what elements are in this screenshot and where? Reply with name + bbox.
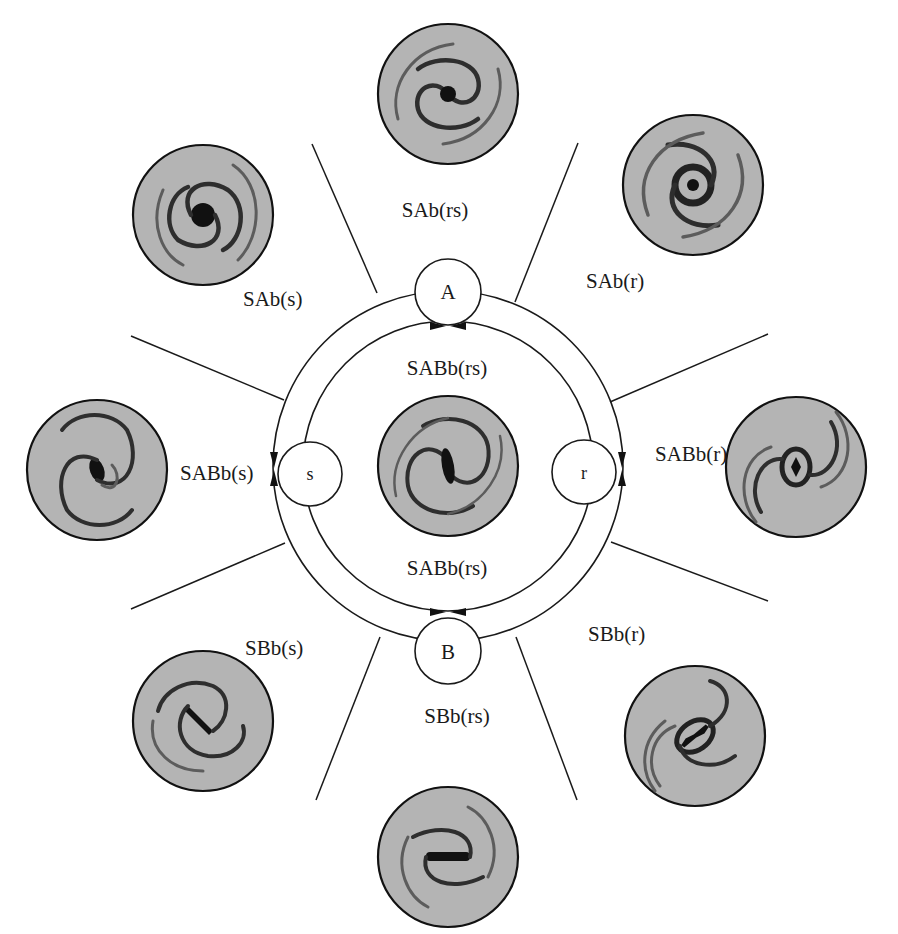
galaxy-sab-rs xyxy=(378,24,518,164)
node-A: A xyxy=(415,259,481,325)
divider-top-right xyxy=(515,143,578,302)
label-sbb-s: SBb(s) xyxy=(245,636,303,660)
arrow-head-icon xyxy=(270,452,278,468)
node-r: r xyxy=(552,440,616,504)
galaxy-sabb-s xyxy=(27,400,167,540)
galaxy-sbb-rs xyxy=(378,787,518,927)
divider-top-left xyxy=(312,144,377,293)
divider-bottom-right xyxy=(516,637,577,800)
divider-left-lower xyxy=(131,543,285,609)
divider-right-upper xyxy=(610,334,768,402)
divider-right-lower xyxy=(611,542,768,601)
node-B: B xyxy=(415,618,481,684)
label-sabb-r: SABb(r) xyxy=(655,442,727,466)
node-A-label: A xyxy=(440,280,456,304)
galaxy-center xyxy=(378,396,518,536)
label-sab-s: SAb(s) xyxy=(243,287,303,311)
galaxy-sabb-r xyxy=(726,397,866,537)
galaxy-classification-diagram: A B s r SABb(rs) SABb(rs) SAb(rs) xyxy=(0,0,898,934)
arrows-bottom xyxy=(430,608,466,616)
arrow-head-icon xyxy=(430,608,446,616)
label-sbb-r: SBb(r) xyxy=(588,622,645,646)
divider-bottom-left xyxy=(316,637,380,800)
inner-label-lower: SABb(rs) xyxy=(407,556,488,580)
node-r-label: r xyxy=(581,463,587,483)
node-s-label: s xyxy=(306,464,313,484)
label-sbb-rs: SBb(rs) xyxy=(424,704,489,728)
divider-left-upper xyxy=(131,336,284,400)
galaxy-sbb-r xyxy=(625,666,765,806)
label-sab-r: SAb(r) xyxy=(586,269,644,293)
galaxy-sab-r xyxy=(623,115,763,255)
arrows-left xyxy=(270,452,278,486)
label-sab-rs: SAb(rs) xyxy=(402,198,469,222)
arrows-right xyxy=(618,452,626,486)
arrow-head-icon xyxy=(618,452,626,468)
label-sabb-s: SABb(s) xyxy=(180,461,254,485)
arrow-head-icon xyxy=(618,470,626,486)
galaxy-sbb-s xyxy=(133,651,273,791)
node-B-label: B xyxy=(441,640,455,664)
inner-label-upper: SABb(rs) xyxy=(407,356,488,380)
node-s: s xyxy=(278,442,342,506)
arrow-head-icon xyxy=(270,470,278,486)
galaxy-sab-s xyxy=(133,145,273,285)
arrow-head-icon xyxy=(450,608,466,616)
